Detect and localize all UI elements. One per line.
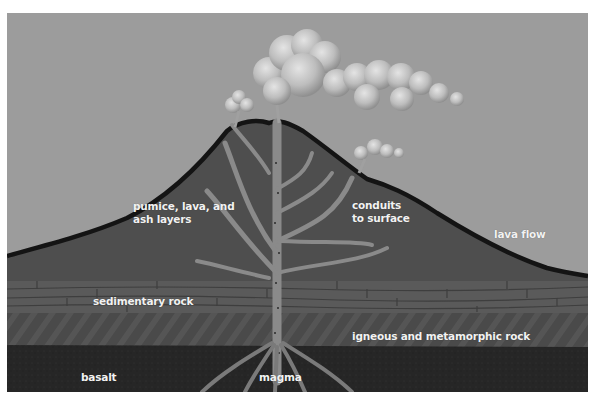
label-igneous-metamorphic-rock: igneous and metamorphic rock: [352, 330, 530, 343]
volcano-diagram: pumice, lava, and ash layers conduits to…: [7, 13, 588, 392]
label-magma: magma: [259, 371, 302, 384]
label-conduits-line1: conduits: [352, 199, 410, 212]
label-pumice-lava-ash: pumice, lava, and ash layers: [133, 200, 234, 226]
label-sedimentary-rock: sedimentary rock: [93, 295, 193, 308]
label-pumice-line2: ash layers: [133, 213, 234, 226]
label-pumice-line1: pumice, lava, and: [133, 200, 234, 213]
label-basalt: basalt: [81, 371, 116, 384]
label-lava-flow: lava flow: [494, 228, 546, 241]
label-conduits-line2: to surface: [352, 212, 410, 225]
label-conduits-to-surface: conduits to surface: [352, 199, 410, 225]
